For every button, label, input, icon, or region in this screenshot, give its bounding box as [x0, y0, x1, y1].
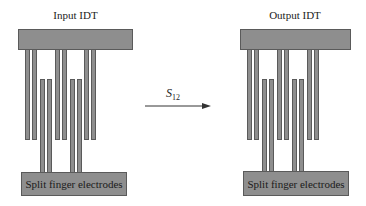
output-idt-bottom-finger: [262, 79, 267, 173]
input-idt-bottom-busbar: Split finger electrodes: [21, 172, 127, 196]
output-idt-bottom-finger: [292, 79, 297, 173]
input-idt-bottom-finger: [77, 79, 82, 173]
input-idt-top-busbar: [18, 29, 133, 50]
output-idt-top-finger: [284, 49, 289, 140]
output-idt-top-busbar: [240, 29, 351, 50]
input-idt-title: Input IDT: [18, 9, 133, 21]
output-idt-bottom-busbar: Split finger electrodes: [243, 171, 349, 196]
input-idt-top-finger: [84, 49, 89, 140]
output-idt-top-finger: [314, 49, 319, 140]
arrow-right-icon: [144, 101, 212, 111]
input-idt-bottom-label: Split finger electrodes: [25, 178, 122, 190]
input-idt-top-finger: [62, 49, 67, 140]
input-idt-top-finger: [55, 49, 60, 140]
output-idt-top-finger: [254, 49, 259, 140]
input-idt-bottom-finger: [47, 79, 52, 173]
input-idt-top-finger: [91, 49, 96, 140]
output-idt-top-finger: [277, 49, 282, 140]
input-idt-top-finger: [32, 49, 37, 140]
output-idt-bottom-label: Split finger electrodes: [247, 178, 344, 190]
output-idt-bottom-finger: [269, 79, 274, 173]
output-idt-bottom-finger: [299, 79, 304, 173]
input-idt-top-finger: [25, 49, 30, 140]
output-idt-title: Output IDT: [240, 9, 350, 21]
s12-label: S12: [166, 86, 180, 102]
output-idt-top-finger: [247, 49, 252, 140]
output-idt-top-finger: [307, 49, 312, 140]
input-idt-bottom-finger: [40, 79, 45, 173]
input-idt-bottom-finger: [70, 79, 75, 173]
